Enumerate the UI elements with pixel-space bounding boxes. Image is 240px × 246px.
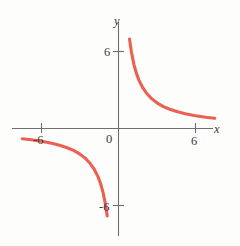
x-tick-label-6: 6 — [191, 134, 197, 148]
curve-branch-quadrant-3 — [22, 139, 107, 216]
hyperbola-plot: -6 6 6 -6 0 x y — [0, 0, 240, 246]
y-tick-label-6: 6 — [104, 45, 110, 59]
graph-figure: -6 6 6 -6 0 x y — [0, 0, 240, 246]
origin-label: 0 — [106, 132, 112, 146]
curve-branch-quadrant-1 — [130, 39, 215, 118]
x-tick-label-minus6: -6 — [33, 133, 43, 147]
y-tick-label-minus6: -6 — [99, 200, 109, 214]
x-axis-label: x — [213, 122, 220, 136]
y-axis-label: y — [112, 14, 120, 28]
